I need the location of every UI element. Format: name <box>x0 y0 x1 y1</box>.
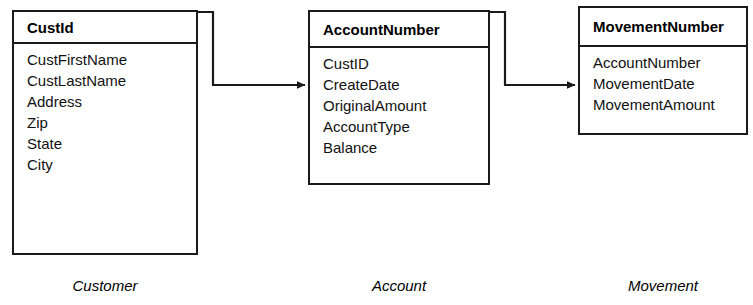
entity-field: MovementDate <box>593 73 746 94</box>
entity-primary-key-customer: CustId <box>14 12 196 44</box>
entity-box-account[interactable]: AccountNumber CustID CreateDate Original… <box>308 10 490 185</box>
entity-field-list-movement: AccountNumber MovementDate MovementAmoun… <box>580 47 746 115</box>
entity-box-movement[interactable]: MovementNumber AccountNumber MovementDat… <box>578 6 748 135</box>
entity-box-customer[interactable]: CustId CustFirstName CustLastName Addres… <box>12 10 198 255</box>
entity-field: CustID <box>323 53 488 74</box>
entity-caption-movement: Movement <box>578 277 748 294</box>
entity-field: Zip <box>27 112 196 133</box>
entity-field: OriginalAmount <box>323 95 488 116</box>
entity-field: City <box>27 154 196 175</box>
relationship-customer-account <box>198 12 305 85</box>
entity-caption-account: Account <box>308 277 490 294</box>
er-diagram: CustId CustFirstName CustLastName Addres… <box>0 0 753 305</box>
entity-field: CustLastName <box>27 70 196 91</box>
entity-field: MovementAmount <box>593 94 746 115</box>
entity-field: State <box>27 133 196 154</box>
relationship-account-movement <box>490 12 575 85</box>
entity-primary-key-movement: MovementNumber <box>580 8 746 47</box>
entity-field-list-customer: CustFirstName CustLastName Address Zip S… <box>14 44 196 175</box>
entity-field-list-account: CustID CreateDate OriginalAmount Account… <box>310 48 488 158</box>
entity-field: AccountType <box>323 116 488 137</box>
entity-field: Balance <box>323 137 488 158</box>
entity-primary-key-account: AccountNumber <box>310 12 488 48</box>
entity-field: AccountNumber <box>593 52 746 73</box>
entity-field: CustFirstName <box>27 49 196 70</box>
entity-caption-customer: Customer <box>12 277 198 294</box>
entity-field: Address <box>27 91 196 112</box>
entity-field: CreateDate <box>323 74 488 95</box>
